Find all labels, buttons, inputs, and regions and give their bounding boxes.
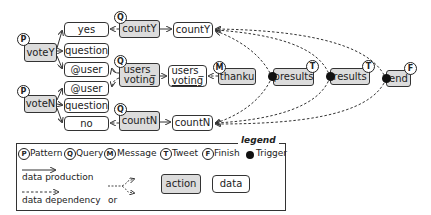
- legend-data-production-label: data production: [22, 172, 93, 182]
- legend-data-label: data: [220, 179, 243, 189]
- legend-data-sample: data: [212, 175, 250, 193]
- legend-or-label: or: [108, 195, 117, 205]
- legend-action-label: action: [166, 179, 197, 189]
- legend-data-dependency-label: data dependency: [22, 195, 101, 205]
- legend-action-sample: action: [161, 174, 201, 194]
